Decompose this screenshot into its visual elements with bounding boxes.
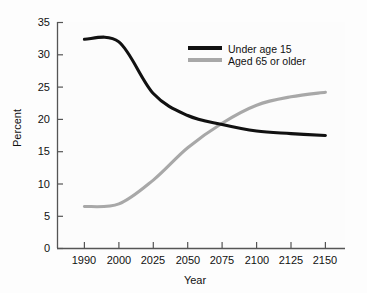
x-axis-title: Year bbox=[160, 274, 230, 286]
chart-figure: 35 30 25 20 15 10 5 0 1990 2000 2025 205… bbox=[0, 0, 367, 293]
x-tick-label-1990: 1990 bbox=[64, 254, 104, 266]
legend-label-under-age-15: Under age 15 bbox=[228, 43, 292, 55]
y-tick-label-15: 15 bbox=[24, 145, 50, 157]
plot-area bbox=[0, 0, 367, 293]
y-tick-label-20: 20 bbox=[24, 113, 50, 125]
x-tick-label-2025: 2025 bbox=[133, 254, 173, 266]
y-tick-label-0: 0 bbox=[24, 242, 50, 254]
y-tick-label-10: 10 bbox=[24, 178, 50, 190]
y-axis-title: Percent bbox=[11, 98, 23, 158]
y-tick-label-30: 30 bbox=[24, 48, 50, 60]
y-tick-label-35: 35 bbox=[24, 16, 50, 28]
x-tick-label-2075: 2075 bbox=[202, 254, 242, 266]
x-tick-label-2150: 2150 bbox=[305, 254, 345, 266]
y-tick-label-25: 25 bbox=[24, 81, 50, 93]
y-tick-label-5: 5 bbox=[24, 210, 50, 222]
legend-label-aged-65-or-older: Aged 65 or older bbox=[228, 55, 306, 67]
